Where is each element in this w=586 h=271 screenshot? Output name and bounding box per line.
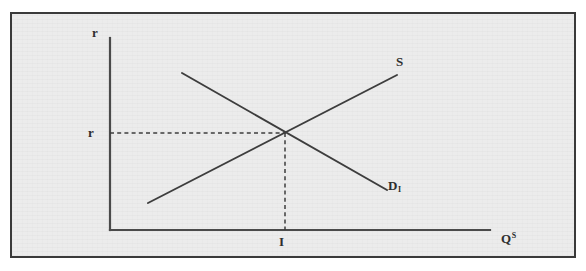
equilibrium-quantity-label: I (279, 235, 284, 248)
equilibrium-rate-label: r (88, 126, 94, 139)
x-axis-label-superscript: S (512, 231, 516, 240)
demand-curve-label-subscript: I (398, 185, 401, 194)
x-axis-label-base: Q (501, 231, 511, 246)
y-axis-label: r (92, 26, 98, 39)
x-axis-label: QS (501, 232, 516, 245)
demand-curve-label-base: D (388, 178, 397, 193)
supply-curve (148, 75, 397, 203)
supply-curve-label: S (396, 55, 403, 68)
figure-container: r r S DI I QS (0, 0, 586, 271)
demand-curve-label: DI (388, 179, 401, 192)
